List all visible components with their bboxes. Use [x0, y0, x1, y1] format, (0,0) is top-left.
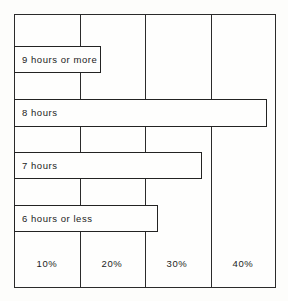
x-tick-label-30: 30% [167, 258, 188, 269]
x-tick-label-40: 40% [233, 258, 254, 269]
bars-layer: 9 hours or more 8 hours 7 hours 6 hours … [14, 14, 276, 288]
bar-label-6-hours-or-less: 6 hours or less [15, 214, 93, 224]
bar-9-hours-or-more: 9 hours or more [14, 46, 101, 73]
x-tick-label-20: 20% [102, 258, 123, 269]
bar-6-hours-or-less: 6 hours or less [14, 205, 158, 232]
bar-label-7-hours: 7 hours [15, 161, 58, 171]
x-axis-tick-labels: 10% 20% 30% 40% [14, 258, 276, 288]
bar-chart: 9 hours or more 8 hours 7 hours 6 hours … [0, 0, 288, 301]
bar-7-hours: 7 hours [14, 152, 202, 179]
bar-label-8-hours: 8 hours [15, 108, 58, 118]
x-tick-label-10: 10% [37, 258, 58, 269]
bar-label-9-hours-or-more: 9 hours or more [15, 55, 97, 65]
bar-8-hours: 8 hours [14, 99, 267, 127]
